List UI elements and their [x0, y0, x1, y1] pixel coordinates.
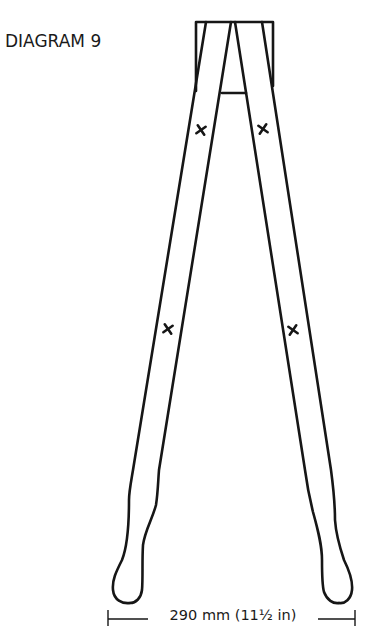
a-frame-drawing — [0, 0, 374, 628]
right-leg-outer-edge — [262, 22, 352, 603]
right-leg — [235, 22, 352, 603]
left-leg — [113, 22, 231, 603]
left-leg-outer-edge — [113, 22, 206, 603]
upper-left-cross — [196, 125, 205, 134]
lower-left-cross — [163, 324, 172, 333]
left-leg-inner-edge — [130, 22, 231, 603]
upper-right-cross — [258, 124, 267, 133]
top-block — [196, 22, 273, 93]
dimension-label: 290 mm (11½ in) — [148, 607, 318, 623]
lower-right-cross — [288, 325, 297, 334]
right-leg-inner-edge — [235, 22, 339, 603]
top-block-outline — [196, 22, 273, 91]
